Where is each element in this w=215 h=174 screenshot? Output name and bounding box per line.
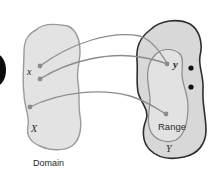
range-point-y (165, 62, 170, 67)
domain-point-lower (28, 105, 33, 110)
unmapped-point-2 (188, 84, 193, 89)
domain-label: Domain (33, 158, 64, 168)
domain-point-x-upper (38, 64, 43, 69)
range-point-lower (164, 112, 169, 117)
range-label: Range (158, 121, 186, 132)
element-label-y: y (171, 58, 178, 70)
cropped-black-circle (0, 54, 6, 86)
unmapped-point-1 (188, 65, 193, 70)
domain-point-x-lower (38, 77, 43, 82)
set-label-X: X (30, 123, 38, 134)
element-label-x: x (26, 66, 32, 77)
function-mapping-diagram: x X y Range Y Domain (0, 0, 215, 174)
